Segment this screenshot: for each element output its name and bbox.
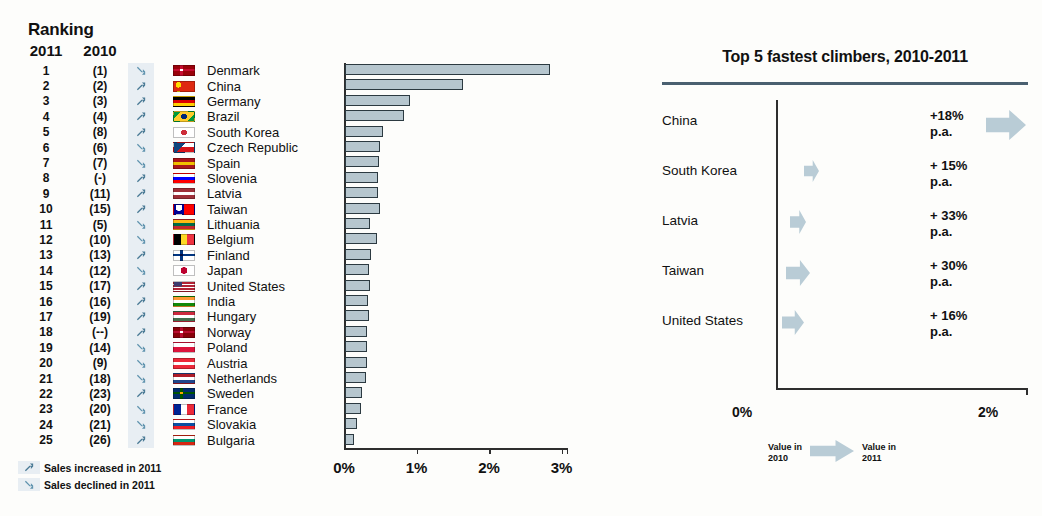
flag-cell [170,404,198,415]
growth-value: + 30% p.a. [930,258,967,291]
rank-2011: 15 [20,280,72,292]
ranking-title: Ranking [28,20,94,40]
bar-row [345,156,379,167]
climbers-x-axis [776,388,1028,390]
rank-2010: (10) [72,234,128,246]
climber-row: South Korea+ 15% p.a. [662,154,1028,204]
rank-2011: 25 [20,434,72,446]
country-name: Netherlands [207,372,277,385]
growth-value: + 16% p.a. [930,308,967,341]
climbers-axis-label-right: 2% [978,404,998,420]
country-name: Lithuania [207,218,260,231]
climber-country-label: United States [662,314,770,329]
ranking-row: 9(11)Latvia [0,186,340,201]
bar-row [345,95,410,106]
bar-row [345,249,371,260]
ranking-row: 1(1)Denmark [0,63,340,78]
trend-down-icon [128,263,154,278]
flag-icon [173,342,195,353]
rank-2010: (26) [72,434,128,446]
trend-down-icon [128,232,154,247]
rank-2010: (11) [72,188,128,200]
ranking-row: 23(20)France [0,402,340,417]
rank-2010: (23) [72,388,128,400]
flag-icon [173,127,195,138]
rank-2010: (7) [72,157,128,169]
country-name: Bulgaria [207,434,255,447]
country-name: Belgium [207,233,254,246]
legend-label-2011: Value in 2011 [862,442,896,465]
rank-2010: (8) [72,126,128,138]
bar-row [345,126,383,137]
bar-row [345,326,367,337]
ranking-list: 1(1)Denmark2(2)China3(3)Germany4(4)Brazi… [0,63,340,448]
bar [345,95,410,106]
title-divider [662,82,1028,85]
rank-2010: (14) [72,342,128,354]
flag-cell [170,296,198,307]
ranking-row: 22(23)Sweden [0,386,340,401]
rank-2011: 18 [20,326,72,338]
flag-cell [170,342,198,353]
flag-icon [173,142,195,153]
bar [345,403,361,414]
rank-2010: (20) [72,403,128,415]
trend-up-icon [128,125,154,140]
growth-arrow-icon [782,310,804,339]
country-name: Norway [207,326,251,339]
column-header-2011: 2011 [20,42,72,59]
rank-2010: (6) [72,142,128,154]
rank-2011: 16 [20,296,72,308]
rank-2011: 7 [20,157,72,169]
bar-row [345,357,367,368]
flag-cell [170,250,198,261]
trend-down-icon [128,371,154,386]
legend-label: Sales increased in 2011 [44,462,161,474]
rank-2010: (15) [72,203,128,215]
bar-chart-x-axis [344,448,568,450]
flag-cell [170,204,198,215]
trend-up-icon [128,78,154,93]
legend-label-2010: Value in 2010 [768,442,802,465]
flag-icon [173,219,195,230]
flag-cell [170,142,198,153]
bar [345,249,371,260]
growth-arrow-icon [790,210,806,238]
bar [345,126,383,137]
ranking-row: 15(17)United States [0,278,340,293]
country-name: Brazil [207,110,240,123]
bar [345,187,378,198]
fastest-climbers-panel: Top 5 fastest climbers, 2010-2011 China+… [648,0,1042,516]
country-name: Slovakia [207,418,256,431]
trend-up-icon [128,94,154,109]
trend-up-icon [128,186,154,201]
flag-cell [170,281,198,292]
rank-2010: (12) [72,265,128,277]
legend-row: Sales declined in 2011 [18,476,161,493]
flag-icon [173,419,195,430]
rank-2011: 1 [20,65,72,77]
bar [345,264,369,275]
climber-row: Latvia+ 33% p.a. [662,204,1028,254]
climber-country-label: South Korea [662,164,770,179]
flag-icon [173,358,195,369]
bar [345,295,368,306]
bar-row [345,187,378,198]
country-name: France [207,403,247,416]
country-name: South Korea [207,126,279,139]
flag-cell [170,81,198,92]
country-name: Hungary [207,310,256,323]
climber-country-label: Taiwan [662,264,770,279]
rank-2010: (2) [72,80,128,92]
ranking-row: 17(19)Hungary [0,309,340,324]
bar-row [345,280,370,291]
trend-up-icon [18,461,40,474]
bar [345,387,362,398]
climber-row: Taiwan+ 30% p.a. [662,254,1028,304]
flag-cell [170,158,198,169]
ranking-row: 14(12)Japan [0,263,340,278]
bar [345,141,380,152]
country-name: Austria [207,357,247,370]
rank-2011: 11 [20,219,72,231]
rank-2010: (1) [72,65,128,77]
